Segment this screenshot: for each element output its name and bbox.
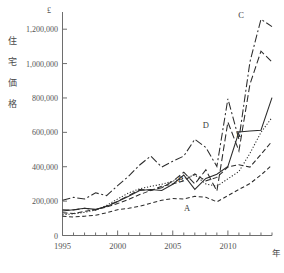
x-tick-label: 2005 <box>164 241 181 251</box>
y-tick-label: 400,000 <box>32 163 58 172</box>
x-axis-ticks <box>63 231 273 236</box>
series-labels: ABCDE <box>178 10 245 213</box>
housing-price-line-chart: £ 住宅価格 0200,000400,000600,000800,0001,00… <box>0 0 284 273</box>
y-tick-label: 600,000 <box>32 128 58 137</box>
x-axis-tick-labels: 1995200020052010 <box>54 241 236 251</box>
series-line-f <box>63 141 273 213</box>
series-label-c: C <box>238 10 244 20</box>
y-axis-title-char: 価 <box>8 77 17 88</box>
y-axis-title: 住宅価格 <box>8 35 17 109</box>
y-axis-title-char: 住 <box>8 35 17 46</box>
x-tick-label: 2010 <box>219 241 236 251</box>
y-tick-label: 1,200,000 <box>26 25 58 34</box>
series-label-e: E <box>236 129 241 139</box>
currency-unit-label: £ <box>47 6 51 15</box>
y-axis-tick-labels: 0200,000400,000600,000800,0001,000,0001,… <box>26 25 58 240</box>
y-axis-ticks <box>63 29 68 235</box>
y-tick-label: 200,000 <box>32 197 58 206</box>
y-axis-title-char: 宅 <box>8 56 17 67</box>
x-tick-label: 2000 <box>109 241 126 251</box>
y-axis-title-char: 格 <box>8 98 17 109</box>
series-line-c <box>63 19 273 200</box>
x-axis-title: 年 <box>272 248 281 258</box>
y-tick-label: 800,000 <box>32 94 58 103</box>
series-label-b: B <box>178 174 184 184</box>
series-label-d: D <box>203 120 209 130</box>
y-tick-label: 1,000,000 <box>26 60 58 69</box>
series-label-a: A <box>184 203 191 213</box>
x-tick-label: 1995 <box>54 241 71 251</box>
y-tick-label: 0 <box>54 232 58 241</box>
chart-canvas: £ 住宅価格 0200,000400,000600,000800,0001,00… <box>0 0 284 273</box>
series-lines <box>63 19 273 217</box>
